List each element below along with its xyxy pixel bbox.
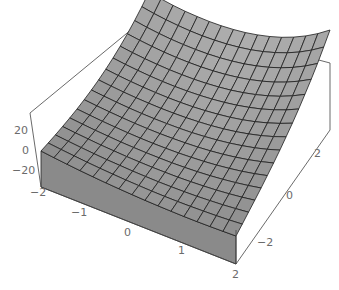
tick-label: 2 [232, 268, 239, 281]
tick-label: −20 [12, 164, 35, 177]
surface-plot: −2−1012−202200−20 [0, 0, 339, 290]
tick-label: −2 [257, 236, 273, 249]
tick-label: 1 [178, 244, 185, 257]
tick-label: 0 [286, 189, 293, 202]
tick-label: 0 [124, 226, 131, 239]
tick-label: −2 [30, 186, 46, 199]
tick-label: 20 [14, 124, 28, 137]
tick-label: −1 [71, 206, 87, 219]
surface-mesh [41, 0, 330, 264]
tick-label: 0 [22, 144, 29, 157]
tick-label: 2 [314, 147, 321, 160]
